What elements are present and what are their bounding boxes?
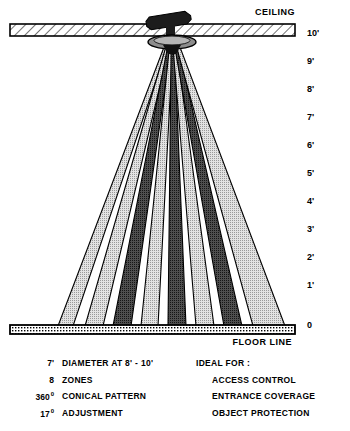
spec-label: CONICAL PATTERN [62, 391, 146, 401]
scale-tick-6: 4' [307, 196, 314, 206]
spec-value: 7' [8, 358, 54, 368]
ceiling-label: CEILING [255, 7, 295, 17]
spec-label: DIAMETER AT 8' - 10' [62, 358, 153, 368]
spec-value: 8 [8, 375, 54, 385]
scale-tick-9: 1' [307, 280, 314, 290]
scale-tick-4: 6' [307, 140, 314, 150]
spec-value: 170 [8, 408, 54, 419]
beam-cones [58, 45, 285, 326]
spec-row: 7'DIAMETER AT 8' - 10' [0, 358, 350, 374]
scale-tick-5: 5' [307, 168, 314, 178]
scale-tick-8: 2' [307, 252, 314, 262]
scale-tick-0: 10' [307, 28, 319, 38]
spec-label: ZONES [62, 375, 93, 385]
spec-value: 3600 [8, 391, 54, 402]
ideal-for-item: OBJECT PROTECTION [212, 408, 310, 418]
ideal-for-item: ENTRANCE COVERAGE [212, 391, 315, 401]
specification-table: 7'DIAMETER AT 8' - 10'8ZONES3600CONICAL … [0, 358, 350, 428]
ideal-for-item: ACCESS CONTROL [212, 375, 296, 385]
scale-tick-10: 0 [307, 320, 312, 330]
degree-symbol: 0 [51, 408, 54, 414]
scale-tick-2: 8' [307, 84, 314, 94]
scale-tick-7: 3' [307, 224, 314, 234]
scale-tick-1: 9' [307, 56, 314, 66]
floor-line-label: FLOOR LINE [233, 337, 293, 347]
ideal-for-heading: IDEAL FOR : [196, 358, 250, 368]
degree-symbol: 0 [51, 391, 54, 397]
scale-tick-3: 7' [307, 112, 314, 122]
floor-bar [10, 325, 295, 334]
spec-row: 8ZONES [0, 375, 350, 391]
spec-label: ADJUSTMENT [62, 408, 123, 418]
